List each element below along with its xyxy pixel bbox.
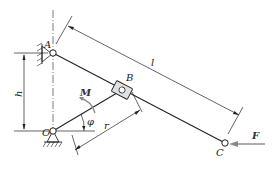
- l-extension-a: [56, 16, 72, 44]
- phi-arrow: [82, 126, 86, 130]
- pivot-c: [222, 140, 228, 146]
- force-label: F: [251, 130, 260, 141]
- b-label: B: [125, 72, 133, 83]
- r-extension-o: [72, 135, 78, 155]
- slider-b: [111, 81, 133, 100]
- h-label: h: [13, 91, 24, 97]
- a-label: A: [43, 39, 51, 50]
- pivot-o: [50, 128, 56, 134]
- moment-label: M: [79, 87, 92, 98]
- l-extension-c: [228, 107, 243, 134]
- l-dimension-line: [68, 26, 239, 115]
- rod-ac: [53, 53, 225, 143]
- r-arrow-b: [135, 110, 141, 115]
- l-arrow-a: [68, 26, 74, 30]
- pivot-a: [50, 50, 56, 56]
- o-label: O: [42, 127, 50, 138]
- force-arrow: [229, 141, 238, 147]
- phi-label: φ: [87, 116, 94, 127]
- mechanism-diagram: h l r φ M B A: [0, 0, 275, 179]
- h-arrow-bottom: [23, 124, 26, 130]
- l-label: l: [151, 57, 154, 68]
- c-label: C: [216, 147, 224, 158]
- r-extension-b: [132, 92, 142, 112]
- l-arrow-c: [233, 111, 239, 115]
- h-arrow-top: [23, 54, 26, 60]
